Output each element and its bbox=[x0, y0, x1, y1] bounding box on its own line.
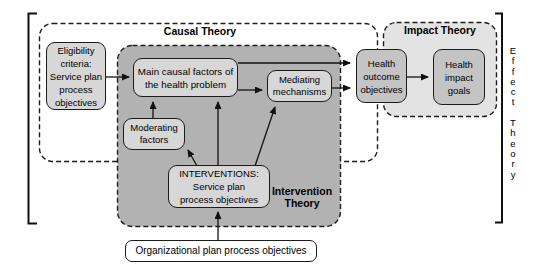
program-theory-diagram: Causal Theory Impact Theory Intervention… bbox=[0, 0, 539, 278]
main-causal-factors-box: Main causal factors of the health proble… bbox=[133, 58, 238, 97]
causal-theory-title: Causal Theory bbox=[120, 26, 280, 38]
moderating-factors-box: Moderating factors bbox=[123, 118, 185, 150]
impact-theory-title: Impact Theory bbox=[383, 25, 497, 37]
health-impact-goals-box: Health impact goals bbox=[433, 49, 485, 105]
effect-theory-vertical-label: E f f e c t T h e o r y bbox=[505, 46, 521, 180]
mediating-mechanisms-box: Mediating mechanisms bbox=[267, 70, 332, 102]
organizational-plan-box: Organizational plan process objectives bbox=[125, 240, 317, 262]
eligibility-criteria-box: Eligibility criteria: Service plan proce… bbox=[46, 42, 106, 110]
health-outcome-objectives-box: Health outcome objectives bbox=[356, 49, 407, 103]
intervention-theory-title: Intervention Theory bbox=[262, 186, 342, 209]
effect-theory-left-bracket bbox=[29, 14, 38, 224]
interventions-box: INTERVENTIONS: Service plan process obje… bbox=[168, 165, 270, 208]
